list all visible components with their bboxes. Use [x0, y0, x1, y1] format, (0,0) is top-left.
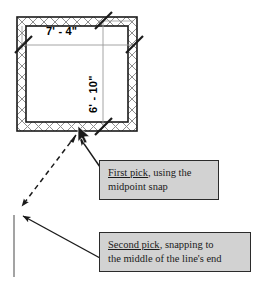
dashed-line-start-arrow: [70, 135, 77, 143]
leader-second-pick: [23, 216, 100, 258]
callout-first-pick-rest: , using the: [148, 167, 191, 178]
callout-second-pick-rest: , snapping to: [160, 239, 214, 250]
dimension-text-horizontal: 7' - 4": [46, 25, 77, 37]
dashed-rubber-band-line: [22, 135, 76, 206]
leader-first-pick: [80, 138, 100, 167]
drawing-canvas: 7' - 4" 6' - 10" First pick, using the m…: [0, 0, 272, 289]
callout-second-pick: Second pick, snapping to the middle of t…: [99, 232, 251, 272]
callout-first-pick: First pick, using the midpoint snap: [99, 160, 219, 200]
dimension-text-vertical: 6' - 10": [87, 75, 99, 113]
callout-first-pick-lead: First pick: [108, 167, 148, 178]
callout-first-pick-line2: midpoint snap: [108, 181, 168, 192]
callout-second-pick-line2: the middle of the line's end: [108, 253, 222, 264]
callout-second-pick-lead: Second pick: [108, 239, 160, 250]
wall-inner-edge: [26, 26, 128, 122]
dimension-horizontal: [15, 26, 143, 53]
